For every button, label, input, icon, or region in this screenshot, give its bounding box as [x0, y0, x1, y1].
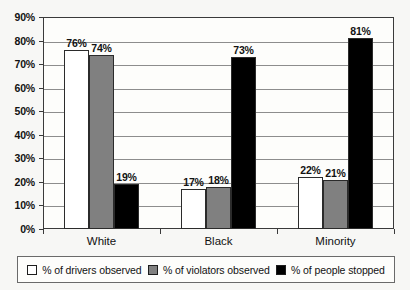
bar-value-label: 81%: [350, 25, 370, 37]
legend-label: % of drivers observed: [42, 264, 141, 276]
y-tick-label: 40%: [15, 129, 35, 141]
y-tick-label: 20%: [15, 176, 35, 188]
y-tick-label: 30%: [15, 152, 35, 164]
y-tick-label: 80%: [15, 35, 35, 47]
bar-value-label: 22%: [300, 164, 320, 176]
x-category-label: White: [87, 235, 116, 247]
legend-label: % of people stopped: [291, 264, 385, 276]
bar: [89, 55, 114, 229]
bar-value-label: 76%: [66, 37, 86, 49]
bar: [298, 177, 323, 229]
x-axis: WhiteBlackMinority: [43, 229, 394, 255]
bar: [64, 50, 89, 229]
bar: [323, 180, 348, 229]
bar: [181, 189, 206, 229]
y-tick-label: 90%: [15, 11, 35, 23]
bar-value-label: 21%: [325, 167, 345, 179]
y-axis: 0%10%20%30%40%50%60%70%80%90%: [0, 0, 43, 290]
bar-value-label: 74%: [91, 42, 111, 54]
bars-layer: 76%74%19%17%18%73%22%21%81%: [43, 17, 394, 229]
legend-swatch-icon: [27, 265, 37, 275]
bar-chart: 0%10%20%30%40%50%60%70%80%90% 76%74%19%1…: [0, 0, 410, 290]
x-tick-mark: [160, 229, 161, 234]
bar: [231, 57, 256, 229]
bar: [206, 187, 231, 229]
bar: [114, 184, 139, 229]
bar-group: 17%18%73%: [181, 17, 256, 229]
bar-value-label: 73%: [233, 44, 253, 56]
x-tick-mark: [43, 229, 44, 234]
y-tick-label: 60%: [15, 82, 35, 94]
bar: [348, 38, 373, 229]
y-tick-label: 10%: [15, 199, 35, 211]
x-tick-mark: [394, 229, 395, 234]
legend-swatch-icon: [276, 265, 286, 275]
legend-item[interactable]: % of drivers observed: [27, 264, 141, 276]
legend-item[interactable]: % of people stopped: [276, 264, 385, 276]
bar-value-label: 17%: [183, 176, 203, 188]
legend-label: % of violators observed: [163, 264, 270, 276]
bar-group: 22%21%81%: [298, 17, 373, 229]
bar-value-label: 18%: [208, 174, 228, 186]
legend-item[interactable]: % of violators observed: [148, 264, 270, 276]
chart-legend: % of drivers observed% of violators obse…: [17, 256, 395, 283]
legend-swatch-icon: [148, 265, 158, 275]
x-category-label: Minority: [315, 235, 355, 247]
bar-value-label: 19%: [116, 171, 136, 183]
x-category-label: Black: [204, 235, 232, 247]
x-tick-mark: [277, 229, 278, 234]
y-tick-label: 70%: [15, 58, 35, 70]
y-tick-label: 0%: [20, 223, 35, 235]
y-tick-label: 50%: [15, 105, 35, 117]
bar-group: 76%74%19%: [64, 17, 139, 229]
